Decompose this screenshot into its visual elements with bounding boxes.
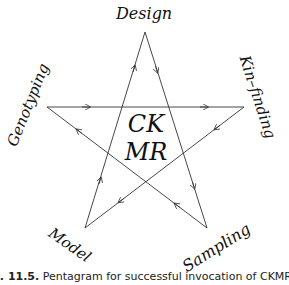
arrow-icon bbox=[77, 129, 83, 133]
arrow-icon bbox=[193, 182, 195, 188]
figure-caption: g. 11.5. Pentagram for successful invoca… bbox=[0, 270, 289, 283]
caption-text: Pentagram for successful invocation of C… bbox=[43, 270, 289, 283]
center-label: CK MR bbox=[116, 110, 176, 166]
vertex-label-design: Design bbox=[116, 4, 172, 23]
center-label-line1: CK bbox=[116, 110, 176, 138]
arrow-icon bbox=[119, 198, 125, 202]
pentagram-diagram: Design Kin–finding Sampling Model Genoty… bbox=[0, 0, 289, 270]
figure-number: g. 11.5. bbox=[0, 270, 39, 283]
center-label-line2: MR bbox=[116, 138, 176, 166]
arrow-icon bbox=[175, 203, 181, 207]
arrow-icon bbox=[215, 125, 221, 129]
